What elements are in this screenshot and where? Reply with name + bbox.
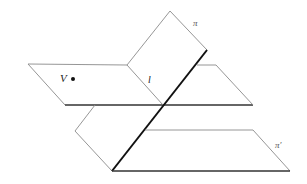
point-v-label: V [60, 73, 67, 84]
plane-pi-lower-left-edge-b [75, 131, 112, 171]
diagram-canvas [0, 0, 307, 184]
line-l [127, 65, 163, 105]
upper-plane-left-edge [28, 64, 65, 105]
plane-pi-lower-left-edge-a [75, 105, 95, 131]
plane-pi-prime-label: π′ [275, 141, 281, 150]
line-l-label: l [148, 75, 151, 85]
planes-diagram: π V l π′ [0, 0, 307, 184]
plane-pi-left-upper-edge [127, 11, 170, 65]
plane-pi-thick-edge [112, 50, 207, 171]
plane-pi-label: π [193, 19, 198, 28]
plane-pi-prime-right-edge [253, 130, 290, 171]
plane-pi [75, 11, 207, 171]
upper-plane-top-edge-left [28, 64, 127, 65]
upper-plane-right-edge [216, 65, 253, 105]
plane-pi-top-right-edge [170, 11, 207, 50]
point-v-dot [71, 77, 75, 81]
upper-plane [28, 64, 253, 105]
